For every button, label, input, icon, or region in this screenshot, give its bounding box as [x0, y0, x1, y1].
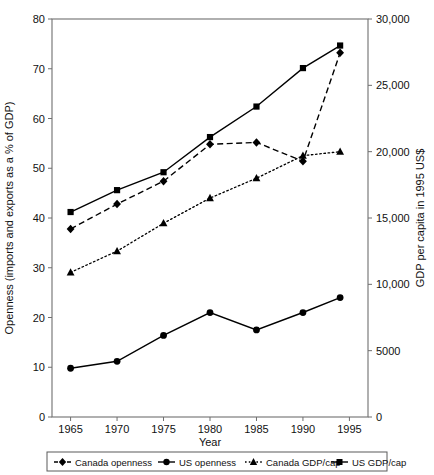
data-point-square-marker [337, 42, 343, 48]
data-point-square-marker [160, 169, 166, 175]
data-point-circle-marker [300, 309, 307, 316]
legend-marker-circle-icon [163, 459, 169, 465]
legend-label: US openness [179, 457, 236, 468]
x-axis-tick-label: 1980 [198, 423, 222, 435]
y-axis-left-tick-label: 10 [33, 361, 45, 373]
x-axis-tick-label: 1975 [151, 423, 175, 435]
y-axis-left-tick-label: 60 [33, 113, 45, 125]
data-point-circle-marker [253, 327, 260, 334]
data-point-square-marker [300, 65, 306, 71]
y-axis-left-ticks: 01020304050607080 [33, 13, 52, 423]
y-axis-left-tick-label: 50 [33, 162, 45, 174]
y-axis-right-tick-label: 15,000 [376, 212, 410, 224]
y-axis-left-tick-label: 80 [33, 13, 45, 25]
data-point-circle-marker [337, 294, 344, 301]
legend-label: US GDP/cap [352, 457, 406, 468]
x-axis-tick-label: 1985 [244, 423, 268, 435]
x-axis-tick-label: 1995 [337, 423, 361, 435]
y-axis-right-tick-label: 5000 [376, 345, 400, 357]
data-point-square-marker [67, 209, 73, 215]
y-axis-left-title: Openness (imports and exports as a % of … [3, 102, 15, 335]
data-point-circle-marker [67, 365, 74, 372]
y-axis-left-tick-label: 0 [39, 411, 45, 423]
y-axis-right-title: GDP per capita in 1995 US$ [414, 149, 426, 288]
data-point-square-marker [253, 103, 259, 109]
y-axis-right-tick-label: 30,000 [376, 13, 410, 25]
data-point-square-marker [114, 187, 120, 193]
y-axis-right-tick-label: 10,000 [376, 278, 410, 290]
y-axis-right-tick-label: 20,000 [376, 146, 410, 158]
legend-label: Canada openness [75, 457, 152, 468]
data-point-square-marker [207, 134, 213, 140]
legend-label: Canada GDP/cap [266, 457, 340, 468]
x-axis-tick-label: 1965 [58, 423, 82, 435]
data-point-circle-marker [114, 358, 121, 365]
x-axis-title: Year [199, 436, 222, 448]
y-axis-right-tick-label: 25,000 [376, 79, 410, 91]
x-axis-tick-label: 1970 [105, 423, 129, 435]
legend: Canada opennessUS opennessCanada GDP/cap… [47, 452, 406, 471]
data-point-circle-marker [160, 332, 167, 339]
legend-marker-square-icon [337, 459, 343, 465]
x-axis-tick-label: 1990 [291, 423, 315, 435]
data-point-circle-marker [207, 309, 214, 316]
y-axis-left-tick-label: 30 [33, 262, 45, 274]
chart-figure: 01020304050607080 0500010,00015,00020,00… [0, 0, 434, 475]
plot-frame [52, 19, 368, 417]
y-axis-left-tick-label: 20 [33, 312, 45, 324]
y-axis-left-tick-label: 40 [33, 212, 45, 224]
y-axis-right-ticks: 0500010,00015,00020,00025,00030,000 [368, 13, 410, 423]
y-axis-left-tick-label: 70 [33, 63, 45, 75]
y-axis-right-tick-label: 0 [376, 411, 382, 423]
x-axis-ticks: 1965197019751980198519901995 [58, 417, 361, 435]
